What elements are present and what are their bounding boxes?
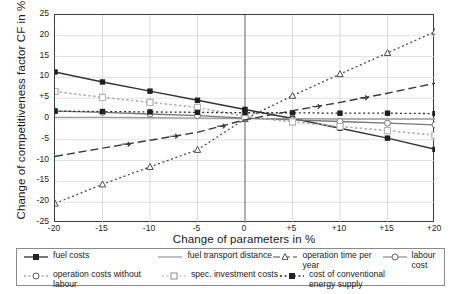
legend-item-operation-time-per-year: operation time per year [272,251,381,270]
data-point [195,104,201,110]
legend-item-labour-cost: labour cost [382,251,440,270]
chart-screenshot: Change of competitiveness factor CF in %… [0,0,461,294]
legend-item-fuel-transport-distance: fuel transport distance [157,251,272,270]
data-point [432,111,435,116]
legend-key-dashdot-open-square-icon [161,271,187,281]
data-point [195,98,200,103]
plot-area [54,14,434,222]
data-point [432,28,435,34]
legend-key-dashdot-open-circle-icon [23,271,49,281]
data-point [100,79,105,84]
data-point [385,128,391,134]
data-point [147,88,152,93]
data-point [55,89,58,95]
series-arrow-glyph [312,104,320,109]
data-point [385,110,390,115]
legend-label: fuel costs [53,251,89,261]
legend-label: fuel transport distance [187,251,272,261]
legend-key-solid-open-circle-icon [382,252,408,262]
data-point [55,69,58,74]
data-point [194,146,200,152]
legend-item-operation-costs-without-labour: operation costs without labour [23,270,161,289]
legend-label: cost of conventional energy supply [309,270,391,289]
legend-label: labour cost [412,251,440,270]
legend-row-2: operation costs without labour spec. inv… [23,270,440,289]
data-point [99,181,105,187]
series-arrow-glyph [360,95,368,100]
x-axis-title: Change of parameters in % [54,233,434,245]
data-point [100,109,105,114]
data-point [432,122,435,128]
data-point [55,200,58,206]
data-point [432,132,435,138]
data-point [290,119,296,125]
data-point [337,123,343,129]
legend-label: spec. investment costs [191,270,278,280]
data-point [385,135,390,140]
legend-key-dotted-filled-square-icon [279,271,305,281]
chart-canvas [55,15,435,223]
legend-key-solid-light-icon [157,252,183,262]
legend-key-solid-filled-square-icon [23,252,49,262]
legend-key-dashed-open-triangle-icon [272,252,298,262]
data-point [432,147,435,152]
legend-item-spec-investment-costs: spec. investment costs [161,270,279,289]
data-point [147,164,153,170]
legend-item-fuel-costs: fuel costs [23,251,157,270]
data-point [147,99,153,105]
data-point [147,109,152,114]
data-point [100,94,106,100]
legend-item-cost-of-conventional-energy-supply: cost of conventional energy supply [279,270,391,289]
series-arrow-glyph [122,142,130,147]
data-point [385,120,391,126]
data-point [337,110,342,115]
data-point [55,108,58,113]
data-point [337,71,343,77]
data-point [242,110,247,115]
series-arrow-glyph [170,134,178,139]
series-arrow-glyph [217,124,225,129]
y-axis-title: Change of competitiveness factor CF in % [15,0,27,225]
data-point [195,110,200,115]
legend-row-1: fuel costs fuel transport distance opera… [23,251,440,270]
legend-label: operation time per year [302,251,381,270]
legend-label: operation costs without labour [53,270,157,289]
chart-legend: fuel costs fuel transport distance opera… [16,248,445,286]
